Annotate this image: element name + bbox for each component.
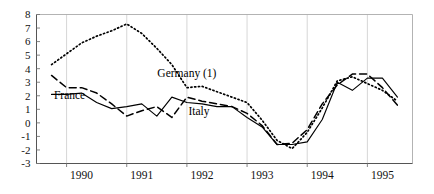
x-tick-label-1991: 1991: [130, 169, 153, 181]
plot-frame: [37, 15, 413, 164]
grid-lines: [67, 15, 368, 164]
annotation-italy: Italy: [188, 105, 209, 118]
y-tick-label--2: -2: [21, 144, 30, 156]
line-chart: 876543210-1-2-3 199019911992199319941995…: [0, 0, 434, 194]
x-tick-label-1992: 1992: [190, 169, 213, 181]
y-tick-label-8: 8: [25, 8, 31, 20]
y-tick-label--1: -1: [21, 130, 30, 142]
y-tick-label-6: 6: [25, 35, 31, 47]
x-axis-tick-labels: 199019911992199319941995: [70, 169, 394, 181]
y-tick-label-2: 2: [25, 90, 31, 102]
annotation-germany-1: Germany (1): [157, 67, 216, 80]
data-series: [52, 24, 398, 149]
annotation-france: France: [54, 89, 85, 101]
y-tick-label-0: 0: [25, 117, 31, 129]
y-tick-label--3: -3: [21, 157, 31, 169]
x-tick-label-1990: 1990: [70, 169, 93, 181]
x-tick-label-1993: 1993: [251, 169, 274, 181]
series-line-italy: [52, 78, 398, 144]
y-tick-label-1: 1: [25, 103, 31, 115]
series-line-france: [52, 74, 398, 144]
y-tick-label-3: 3: [25, 76, 31, 88]
y-tick-label-5: 5: [25, 49, 31, 61]
y-axis-ticks: [37, 15, 41, 164]
x-tick-label-1994: 1994: [311, 169, 334, 181]
series-annotations: Germany (1)FranceItaly: [54, 67, 217, 118]
y-tick-label-7: 7: [25, 22, 31, 34]
y-tick-label-4: 4: [25, 63, 31, 75]
x-tick-label-1995: 1995: [371, 169, 394, 181]
y-axis-tick-labels: 876543210-1-2-3: [21, 8, 31, 169]
x-axis-ticks: [67, 164, 368, 168]
chart-container: 876543210-1-2-3 199019911992199319941995…: [0, 0, 434, 194]
